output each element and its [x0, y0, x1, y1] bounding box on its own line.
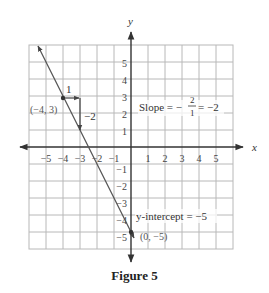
figure-caption: Figure 5	[0, 268, 269, 284]
svg-text:2: 2	[163, 153, 168, 164]
svg-text:2: 2	[190, 95, 195, 105]
y-tick-labels: 5 4 3 2 1 −1 −2 −3 −4 −5	[116, 58, 127, 243]
svg-text:−3: −3	[116, 198, 127, 209]
svg-text:= −2: = −2	[198, 101, 219, 113]
svg-text:2: 2	[122, 109, 127, 120]
rise-label: −2	[84, 110, 96, 122]
intercept-annotation: y-intercept = −5	[135, 209, 217, 223]
svg-text:1: 1	[146, 153, 151, 164]
point-0-neg5	[129, 230, 133, 234]
slope-annotation: Slope = − 2 1 = −2	[138, 95, 224, 118]
svg-text:−2: −2	[92, 153, 103, 164]
y-axis-label: y	[127, 15, 133, 27]
point-a-label: (−4, 3)	[30, 104, 57, 116]
svg-text:3: 3	[180, 153, 185, 164]
x-axis-label: x	[251, 141, 257, 153]
svg-text:5: 5	[214, 153, 219, 164]
point-b-label: (0, −5)	[140, 231, 167, 243]
svg-text:−1: −1	[116, 164, 127, 175]
x-tick-labels: −5 −4 −3 −2 −1 1 2 3 4 5	[41, 153, 219, 164]
svg-text:−4: −4	[58, 153, 69, 164]
svg-text:−5: −5	[41, 153, 52, 164]
svg-text:−5: −5	[116, 232, 127, 243]
svg-text:1: 1	[190, 108, 195, 118]
svg-text:4: 4	[197, 153, 202, 164]
svg-text:3: 3	[122, 92, 127, 103]
line-y-equals-neg2x-minus5	[38, 46, 134, 238]
svg-text:−1: −1	[109, 153, 120, 164]
run-label: 1	[66, 83, 72, 95]
svg-text:y-intercept = −5: y-intercept = −5	[136, 210, 208, 222]
svg-text:−2: −2	[116, 181, 127, 192]
svg-text:−3: −3	[75, 153, 86, 164]
svg-text:Slope = −: Slope = −	[139, 101, 182, 113]
coordinate-graph: x y −5 −4 −3 −2 −1 1 2 3 4 5 5 4 3 2 1 −…	[0, 0, 269, 293]
svg-text:1: 1	[122, 126, 127, 137]
svg-text:4: 4	[122, 75, 127, 86]
svg-text:5: 5	[122, 58, 127, 69]
